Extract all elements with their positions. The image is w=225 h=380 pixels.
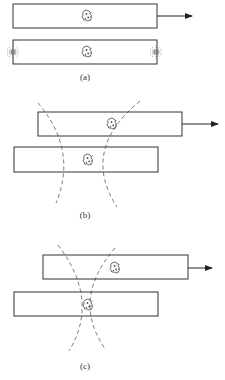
moving-bar (13, 4, 157, 28)
panel-a (7, 4, 192, 64)
stationary-bar (14, 147, 158, 172)
wavefront-left (58, 245, 82, 351)
cell-icon (82, 10, 92, 21)
cell-icon (82, 46, 92, 57)
panel-a-label: (a) (65, 72, 105, 82)
cell-icon (83, 299, 93, 310)
stationary-bar (14, 292, 158, 316)
panel-c (14, 245, 212, 351)
panel-b-label: (b) (65, 210, 105, 220)
cell-icon (83, 154, 93, 165)
cell-icon (110, 262, 120, 273)
stationary-bar (13, 40, 157, 64)
moving-bar (43, 255, 188, 279)
moving-bar (38, 112, 182, 136)
diagram-canvas (0, 0, 225, 380)
burst-icon (150, 45, 162, 59)
panel-b (14, 101, 218, 207)
panel-c-label: (c) (65, 361, 105, 371)
